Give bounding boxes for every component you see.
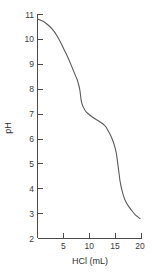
y-tick-label: 8 — [29, 84, 34, 94]
y-tick-label: 7 — [29, 109, 34, 119]
y-tick-label: 9 — [29, 59, 34, 69]
y-tick-label: 3 — [29, 209, 34, 219]
y-tick-label: 11 — [25, 10, 34, 20]
y-tick-label: 2 — [29, 234, 34, 244]
y-axis-title: pH — [3, 122, 13, 134]
y-axis-tick-labels: 11 10 9 8 7 6 5 4 3 2 — [25, 10, 35, 244]
x-tick-label: 5 — [61, 241, 66, 251]
y-tick-label: 5 — [29, 159, 34, 169]
y-tick-label: 6 — [29, 134, 34, 144]
chart-screenshot: 11 10 9 8 7 6 5 4 3 2 5 10 15 20 pH HCl … — [0, 0, 152, 273]
y-axis-ticks — [38, 15, 44, 214]
titration-curve-line — [38, 19, 140, 219]
x-tick-label: 10 — [84, 241, 94, 251]
x-axis-ticks — [63, 233, 141, 239]
y-tick-label: 10 — [25, 34, 35, 44]
y-tick-label: 4 — [29, 184, 34, 194]
x-axis-title: HCl (mL) — [72, 256, 108, 266]
titration-curve-chart: 11 10 9 8 7 6 5 4 3 2 5 10 15 20 pH HCl … — [0, 0, 152, 273]
x-tick-label: 20 — [135, 241, 145, 251]
x-tick-label: 15 — [110, 241, 120, 251]
x-axis-tick-labels: 5 10 15 20 — [61, 241, 145, 251]
